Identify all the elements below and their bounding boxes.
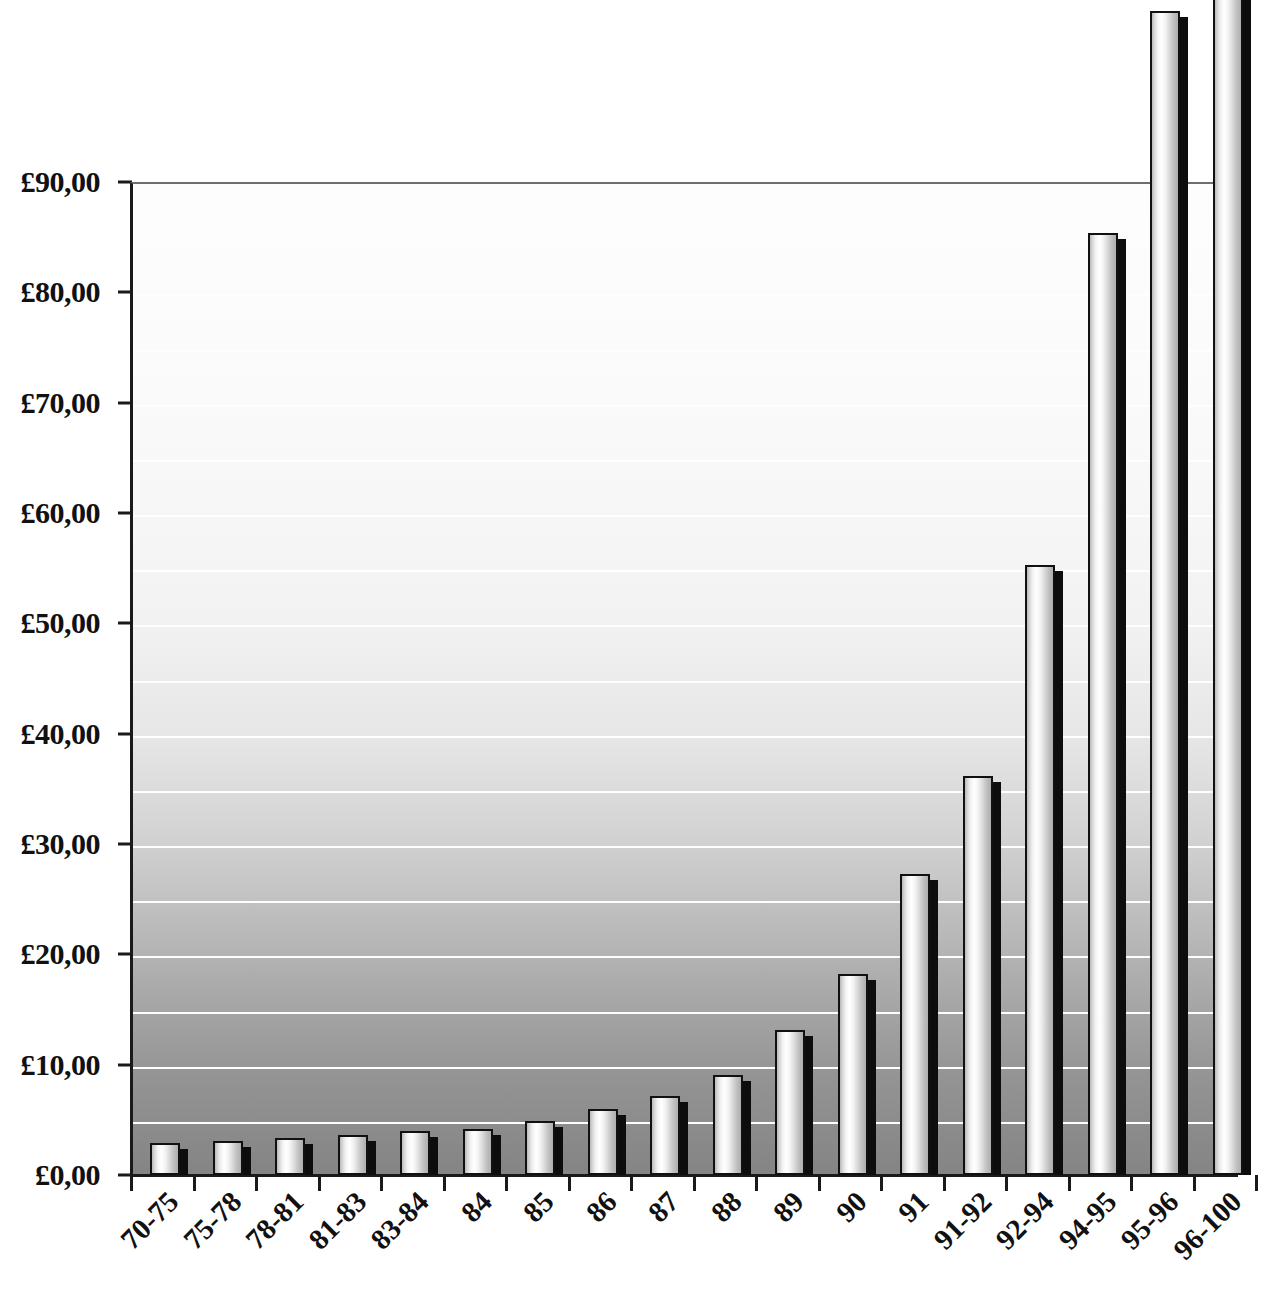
bar[interactable] <box>463 1129 493 1175</box>
bar-chart: £90,00£80,00£70,00£60,00£50,00£40,00£30,… <box>0 0 1272 1304</box>
bar[interactable] <box>1213 0 1243 1175</box>
bar[interactable] <box>713 1075 743 1175</box>
bar[interactable] <box>338 1135 368 1175</box>
bar[interactable] <box>775 1030 805 1175</box>
y-axis-tick-label: £50,00 <box>21 606 101 640</box>
bar[interactable] <box>588 1109 618 1175</box>
bar[interactable] <box>900 874 930 1175</box>
bar[interactable] <box>838 974 868 1175</box>
bar[interactable] <box>1025 565 1055 1175</box>
bar[interactable] <box>213 1141 243 1175</box>
y-axis-tick-label: £20,00 <box>21 937 101 971</box>
y-axis-tick-label: £60,00 <box>21 496 101 530</box>
y-axis-tick-label: £30,00 <box>21 827 101 861</box>
bar[interactable] <box>1150 11 1180 1175</box>
plot-area <box>130 182 1240 1175</box>
y-axis-tick-label: £70,00 <box>21 386 101 420</box>
y-axis-tick-label: £40,00 <box>21 717 101 751</box>
y-axis-tick-label: £10,00 <box>21 1048 101 1082</box>
y-axis-tick-label: £80,00 <box>21 275 101 309</box>
bar[interactable] <box>275 1138 305 1176</box>
bar[interactable] <box>150 1143 180 1175</box>
bar[interactable] <box>650 1096 680 1175</box>
y-axis-tick-label: £90,00 <box>21 165 101 199</box>
y-axis: £90,00£80,00£70,00£60,00£50,00£40,00£30,… <box>0 0 128 1304</box>
x-axis-labels: 70-7575-7878-8181-8383-84848586878889909… <box>0 1185 1272 1304</box>
bar[interactable] <box>400 1131 430 1175</box>
bar[interactable] <box>1088 233 1118 1175</box>
bar[interactable] <box>963 776 993 1175</box>
bar[interactable] <box>525 1121 555 1175</box>
bars-layer <box>133 184 1238 1175</box>
